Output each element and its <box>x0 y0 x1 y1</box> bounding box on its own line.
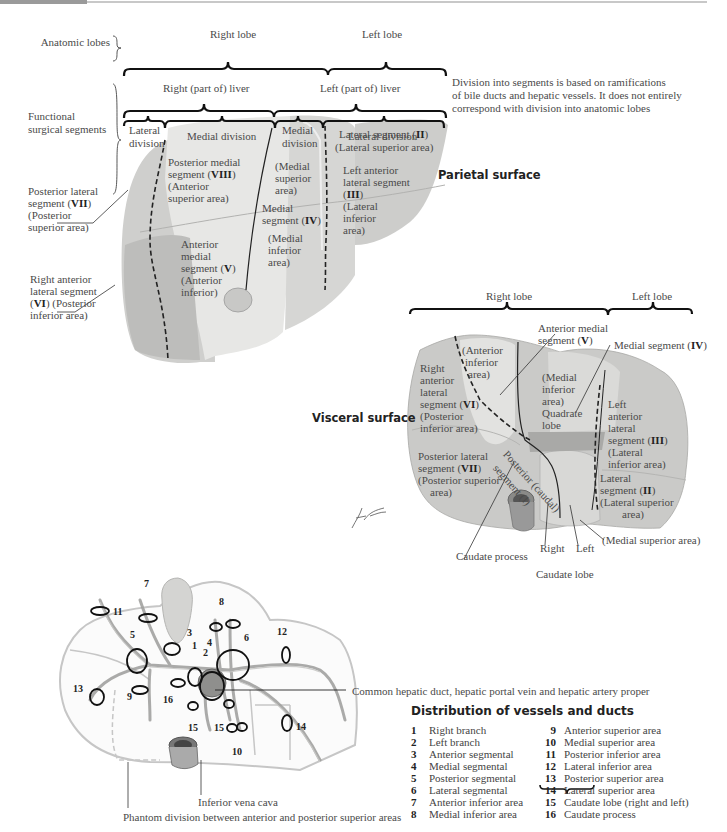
legend-item: 12Lateral inferior area <box>536 760 689 772</box>
visceral-right-lobe: Right lobe <box>486 290 532 303</box>
legend-item: 14Lateral superior area <box>536 784 689 796</box>
quadrate-5: lobe <box>542 419 561 432</box>
segment-iii-label-2: lateral segment <box>343 176 410 189</box>
marker-10: 10 <box>232 746 242 757</box>
functional-right-liver: Right (part of) liver <box>163 82 249 95</box>
segment-v-area-2: inferior) <box>181 286 218 299</box>
caudate-process-callout: Caudate process <box>456 550 528 563</box>
division-right-lateral: Lateral <box>129 124 160 137</box>
marker-14: 14 <box>296 721 306 732</box>
segment-v-label: Anterior <box>181 238 218 251</box>
medial-superior-callout: (Medial superior area) <box>602 534 700 547</box>
segment-iii-label: Left anterior <box>343 164 398 177</box>
callout-vi-3: (VI) (Posterior <box>30 297 96 310</box>
visceral-vii-4: area) <box>430 486 452 499</box>
visceral-vii-2: segment (VII) <box>418 462 481 475</box>
quadrate-1: (Medial <box>542 371 577 384</box>
division-left-medial-2: division <box>282 137 317 150</box>
note-line-1: Division into segments is based on ramif… <box>452 76 666 89</box>
visceral-iii-5: (Lateral <box>608 446 643 459</box>
quadrate-2: inferior <box>542 383 575 396</box>
visceral-vi-1: Right <box>420 362 444 375</box>
visceral-callout-v-2: segment (V) <box>538 334 593 347</box>
iv-inferior-2: inferior <box>268 244 301 257</box>
visceral-vi-5: (Posterior <box>420 410 463 423</box>
legend-item: 5Posterior segmental <box>411 772 523 784</box>
ivc-callout: Inferior vena cava <box>198 796 278 809</box>
legend-item: 16Caudate process <box>536 808 689 820</box>
callout-vii-2: segment (VII) <box>28 197 91 210</box>
caudate-right-label: Right <box>540 542 564 555</box>
legend-item: 9Anterior superior area <box>536 724 689 736</box>
visceral-callout-v: Anterior medial <box>538 322 608 335</box>
v-anterior-inferior-2: inferior <box>465 356 498 369</box>
marker-7: 7 <box>144 578 149 589</box>
callout-vi-4: inferior area) <box>30 309 88 322</box>
legend-item: 10Medial superior area <box>536 736 689 748</box>
visceral-surface-title: Visceral surface <box>312 411 416 425</box>
caudate-left-label: Left <box>576 542 594 555</box>
legend-left-column: 1Right branch 2Left branch 3Anterior seg… <box>411 724 523 820</box>
visceral-iii-2: anterior <box>608 410 642 423</box>
visceral-ii-1: Lateral <box>600 472 631 485</box>
legend-item: 4Medial segmental <box>411 760 523 772</box>
iv-superior-2: superior <box>275 172 311 185</box>
legend-item: 3Anterior segmental <box>411 748 523 760</box>
visceral-ii-4: area) <box>622 508 644 521</box>
marker-13: 13 <box>73 683 83 694</box>
marker-16: 16 <box>163 694 173 705</box>
segment-viii-area: (Anterior <box>168 180 209 193</box>
artist-signature <box>352 508 386 528</box>
visceral-left-lobe: Left lobe <box>632 290 672 303</box>
anatomic-right-lobe: Right lobe <box>210 28 256 41</box>
marker-4: 4 <box>207 637 212 648</box>
division-right-medial: Medial division <box>187 130 256 143</box>
marker-9: 9 <box>127 691 132 702</box>
visceral-vii-3: (Posterior superior <box>418 474 500 487</box>
legend-right-column: 9Anterior superior area 10Medial superio… <box>536 724 689 820</box>
visceral-callout-iv: Medial segment (IV) <box>614 339 707 352</box>
marker-2: 2 <box>203 647 208 658</box>
callout-vi-2: lateral segment <box>30 285 97 298</box>
segment-iii-label-3: (III) <box>343 188 363 201</box>
segment-iv-label: Medial <box>262 202 293 215</box>
row-label-anatomic-lobes: Anatomic lobes <box>32 36 110 49</box>
visceral-iii-1: Left <box>608 398 626 411</box>
marker-15b: 15 <box>214 722 224 733</box>
segment-iii-area-3: area) <box>343 224 365 237</box>
segment-viii-label-2: segment (VIII) <box>168 168 236 181</box>
visceral-iii-6: inferior area) <box>608 458 666 471</box>
visceral-liver-illustration <box>408 334 688 559</box>
visceral-vi-2: anterior <box>420 374 454 387</box>
quadrate-4: Quadrate <box>542 407 582 420</box>
legend-item: 15Caudate lobe (right and left) <box>536 796 689 808</box>
callout-vii-4: superior area) <box>28 221 89 234</box>
legend-title: Distribution of vessels and ducts <box>411 704 634 718</box>
iv-superior-3: area) <box>275 184 297 197</box>
note-line-2: of bile ducts and hepatic vessels. It do… <box>452 89 682 102</box>
segment-iii-area-2: inferior <box>343 212 376 225</box>
callout-vii: Posterior lateral <box>28 185 98 198</box>
visceral-vi-3: lateral <box>420 386 447 399</box>
legend-item: 11Posterior inferior area <box>536 748 689 760</box>
legend-item: 7Anterior inferior area <box>411 796 523 808</box>
v-anterior-inferior-1: (Anterior <box>462 344 503 357</box>
marker-8: 8 <box>219 596 224 607</box>
division-right-lateral-2: division <box>129 137 164 150</box>
iv-superior-1: (Medial <box>275 160 310 173</box>
legend-item: 1Right branch <box>411 724 523 736</box>
segment-iii-area: (Lateral <box>343 200 378 213</box>
legend-item: 6Lateral segmental <box>411 784 523 796</box>
marker-3: 3 <box>187 627 192 638</box>
segment-iv-label-2: segment (IV) <box>262 214 321 227</box>
quadrate-3: area) <box>542 395 564 408</box>
legend-item: 8Medial inferior area <box>411 808 523 820</box>
visceral-vi-6: inferior area) <box>420 422 478 435</box>
visceral-iii-4: segment (III) <box>608 434 668 447</box>
marker-12: 12 <box>277 626 287 637</box>
callout-vi: Right anterior <box>30 273 91 286</box>
row-label-functional-2: surgical segments <box>28 123 106 136</box>
visceral-vi-4: segment (VI) <box>420 398 479 411</box>
visceral-ii-2: segment (II) <box>600 484 655 497</box>
v-anterior-inferior-3: area) <box>468 368 490 381</box>
